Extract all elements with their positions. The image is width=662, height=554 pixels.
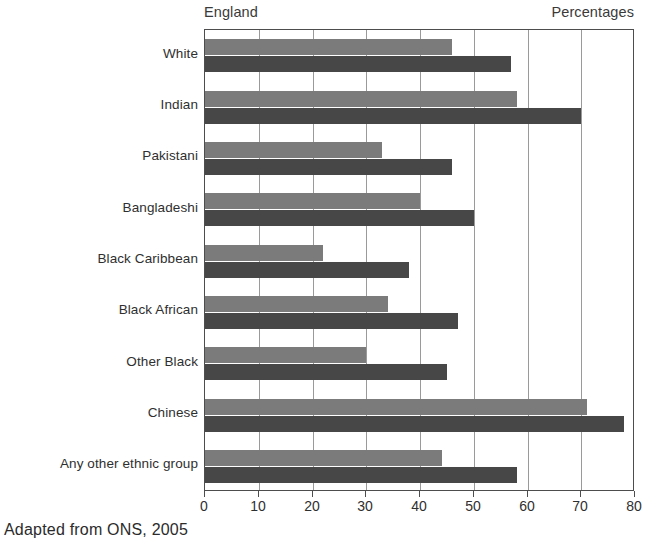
- bar-boys: [205, 39, 452, 55]
- bar-girls: [205, 467, 517, 483]
- source-caption: Adapted from ONS, 2005: [4, 521, 188, 539]
- axis-tick-label: 50: [465, 498, 481, 514]
- axis-tick-label: 60: [519, 498, 535, 514]
- category-label: Indian: [3, 97, 198, 112]
- category-label: Pakistani: [3, 148, 198, 163]
- category-label: Chinese: [3, 405, 198, 420]
- bar-girls: [205, 108, 581, 124]
- axis-tick: [312, 491, 313, 497]
- axis-tick: [419, 491, 420, 497]
- bar-girls: [205, 416, 624, 432]
- axis-tick-label: 40: [411, 498, 427, 514]
- bar-girls: [205, 56, 511, 72]
- bar-girls: [205, 159, 452, 175]
- bar-boys: [205, 245, 323, 261]
- axis-tick: [365, 491, 366, 497]
- chart-figure: England Percentages WhiteIndianPakistani…: [0, 0, 662, 554]
- axis-tick-label: 0: [200, 498, 208, 514]
- axis-tick-label: 10: [250, 498, 266, 514]
- axis-tick: [204, 491, 205, 497]
- category-label: Other Black: [3, 354, 198, 369]
- axis-tick-label: 70: [572, 498, 588, 514]
- axis-tick-label: 80: [626, 498, 642, 514]
- bar-girls: [205, 210, 474, 226]
- category-axis-labels: WhiteIndianPakistaniBangladeshiBlack Car…: [0, 29, 198, 491]
- units-label: Percentages: [551, 4, 634, 20]
- bar-girls: [205, 364, 447, 380]
- chart-header: England Percentages: [204, 4, 634, 26]
- plot-inner: [205, 30, 633, 490]
- bar-boys: [205, 193, 420, 209]
- bar-girls: [205, 313, 458, 329]
- axis-tick: [527, 491, 528, 497]
- bar-boys: [205, 347, 366, 363]
- bar-boys: [205, 399, 587, 415]
- bar-boys: [205, 91, 517, 107]
- axis-tick: [634, 491, 635, 497]
- bar-boys: [205, 450, 442, 466]
- axis-tick: [580, 491, 581, 497]
- category-label: Bangladeshi: [3, 200, 198, 215]
- region-label: England: [204, 4, 258, 20]
- category-label: Any other ethnic group: [3, 456, 198, 471]
- bar-boys: [205, 142, 382, 158]
- axis-tick: [473, 491, 474, 497]
- axis-tick-label: 30: [357, 498, 373, 514]
- plot-area: BoysGirls: [204, 29, 634, 491]
- category-label: Black Caribbean: [3, 251, 198, 266]
- value-axis: 01020304050607080: [204, 491, 634, 517]
- bar-girls: [205, 262, 409, 278]
- category-label: White: [3, 46, 198, 61]
- bar-boys: [205, 296, 388, 312]
- axis-tick: [258, 491, 259, 497]
- category-label: Black African: [3, 302, 198, 317]
- axis-tick-label: 20: [304, 498, 320, 514]
